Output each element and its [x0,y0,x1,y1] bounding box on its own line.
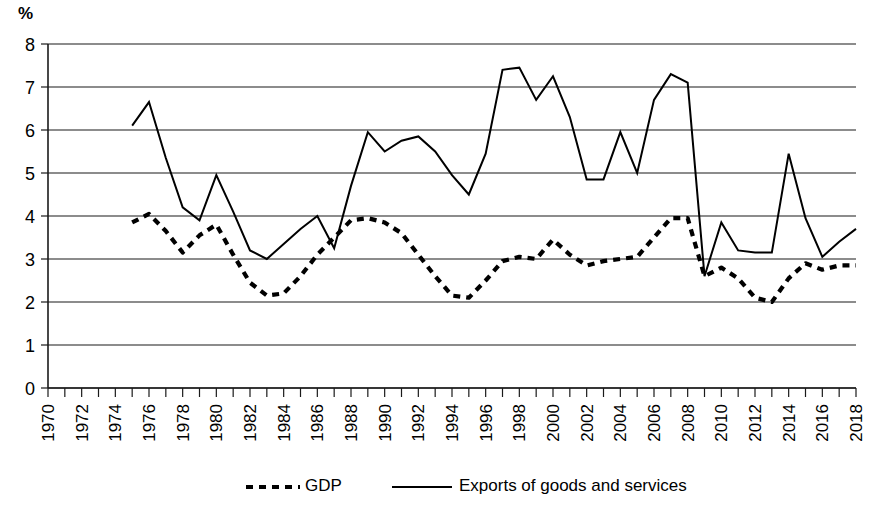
x-tick-label: 1994 [443,404,462,442]
line-chart-plot: 012345678 197019721974197619781980198219… [0,0,870,510]
y-tick-label: 5 [25,164,35,184]
y-tick-label: 7 [25,78,35,98]
x-tick-label: 1974 [106,404,125,442]
x-tick-label: 1970 [39,404,58,442]
x-tick-label: 1998 [510,404,529,442]
y-tick-label: 8 [25,35,35,55]
x-tick-label: 1996 [477,404,496,442]
y-tick-label: 1 [25,336,35,356]
x-tick-label: 1978 [174,404,193,442]
y-tick-label: 3 [25,250,35,270]
series-line-exports [132,68,856,277]
x-tick-label: 2004 [611,404,630,442]
x-tick-label: 2010 [712,404,731,442]
legend-group: GDPExports of goods and services [246,476,687,495]
x-tick-label: 1990 [376,404,395,442]
x-tick-label: 2006 [645,404,664,442]
x-tick-label: 1976 [140,404,159,442]
x-tick-label: 1982 [241,404,260,442]
x-tick-label: 1984 [275,404,294,442]
x-tick-label: 2008 [679,404,698,442]
y-tick-label: 4 [25,207,35,227]
x-axis-ticks-group: 1970197219741976197819801982198419861988… [39,388,866,442]
chart-container: % 012345678 1970197219741976197819801982… [0,0,870,510]
legend-label-gdp: GDP [305,476,342,495]
x-tick-label: 2002 [578,404,597,442]
data-series-group [132,68,856,302]
x-tick-label: 1986 [308,404,327,442]
x-tick-label: 2018 [847,404,866,442]
y-axis-ticks-group: 012345678 [25,35,48,399]
gridlines-group [48,44,856,388]
x-tick-label: 1980 [207,404,226,442]
x-tick-label: 1992 [409,404,428,442]
x-tick-label: 1988 [342,404,361,442]
x-tick-label: 2016 [813,404,832,442]
x-tick-label: 2014 [780,404,799,442]
x-tick-label: 2012 [746,404,765,442]
legend-label-exports: Exports of goods and services [459,476,687,495]
x-tick-label: 2000 [544,404,563,442]
y-tick-label: 6 [25,121,35,141]
y-tick-label: 0 [25,379,35,399]
y-tick-label: 2 [25,293,35,313]
x-tick-label: 1972 [73,404,92,442]
